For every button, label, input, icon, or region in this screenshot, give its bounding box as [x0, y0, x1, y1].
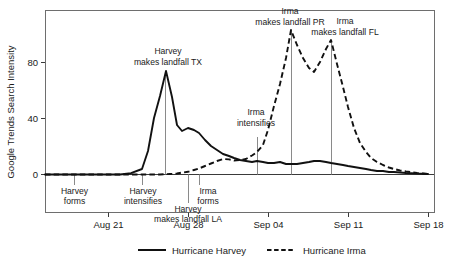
- anno-harvey-landfall-la-line2: makes landfall LA: [154, 214, 222, 224]
- chart-figure: Google Trends Search Intensity 80 40 0 A…: [0, 0, 450, 262]
- anno-irma-forms-line1: Irma: [199, 186, 216, 196]
- anno-irma-intensifies-line2: intensifies: [237, 118, 275, 128]
- anno-harvey-intensifies-line1: Harvey: [129, 186, 157, 196]
- anno-harvey-intensifies-line2: intensifies: [124, 196, 162, 206]
- legend-label-harvey: Hurricane Harvey: [172, 245, 246, 256]
- anno-irma-landfall-fl-line2: makes landfall FL: [311, 27, 379, 37]
- y-tick-label-0: 0: [33, 169, 38, 180]
- anno-harvey-landfall-tx-line2: makes landfall TX: [134, 57, 202, 67]
- anno-irma-landfall-pr-line2: makes landfall PR: [255, 17, 324, 27]
- y-axis-ticks: [41, 63, 45, 175]
- anno-harvey-forms-line1: Harvey: [61, 186, 89, 196]
- y-tick-label-40: 40: [27, 113, 38, 124]
- anno-harvey-landfall-tx-line1: Harvey: [154, 46, 182, 56]
- anno-irma-forms-line2: forms: [197, 196, 218, 206]
- x-tick-label-sep-11: Sep 11: [334, 219, 363, 230]
- y-tick-label-80: 80: [27, 57, 38, 68]
- annotation-lines: [75, 30, 332, 203]
- plot-frame: [46, 11, 435, 213]
- anno-irma-intensifies-line1: Irma: [247, 107, 264, 117]
- anno-irma-landfall-pr-line1: Irma: [281, 6, 298, 16]
- trends-line-chart: Google Trends Search Intensity 80 40 0 A…: [0, 0, 450, 262]
- x-tick-label-sep-04: Sep 04: [253, 219, 283, 230]
- anno-harvey-forms-line2: forms: [64, 196, 85, 206]
- x-tick-label-aug-21: Aug 21: [93, 219, 123, 230]
- chart-legend: Hurricane Harvey Hurricane Irma: [138, 245, 367, 256]
- x-tick-label-sep-18: Sep 18: [413, 219, 443, 230]
- legend-label-irma: Hurricane Irma: [303, 245, 367, 256]
- anno-irma-landfall-fl-line1: Irma: [336, 16, 353, 26]
- y-axis-title: Google Trends Search Intensity: [5, 45, 16, 178]
- series-hurricane-irma: [45, 30, 428, 175]
